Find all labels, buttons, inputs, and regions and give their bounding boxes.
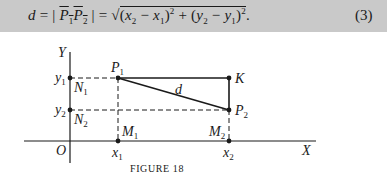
tick-y1: y1	[53, 70, 66, 87]
label-distance-d: d	[175, 82, 183, 97]
tick-y2: y2	[53, 102, 66, 119]
label-m1: M1	[121, 124, 138, 141]
point-x2	[227, 139, 232, 144]
tick-x2: x2	[222, 145, 234, 162]
segment-p1-p2	[118, 78, 229, 110]
point-p2	[227, 108, 232, 113]
figure-18-diagram: Y X O y1 y2 x1 x2 N1 N2 P1 M1 M2 K P2 d …	[0, 0, 387, 183]
origin-label: O	[56, 143, 66, 158]
label-m2: M2	[208, 124, 225, 141]
label-p2: P2	[234, 103, 248, 120]
label-n2: N2	[73, 112, 88, 129]
x-axis-label: X	[301, 143, 311, 158]
point-x1	[116, 139, 121, 144]
label-n1: N1	[73, 80, 88, 97]
point-k	[227, 76, 232, 81]
y-axis-label: Y	[58, 45, 68, 60]
tick-x1: x1	[111, 145, 123, 162]
point-n2	[68, 108, 73, 113]
figure-caption: FIGURE 18	[130, 163, 184, 174]
label-p1: P1	[110, 60, 124, 77]
label-k: K	[234, 71, 245, 86]
point-n1	[68, 76, 73, 81]
